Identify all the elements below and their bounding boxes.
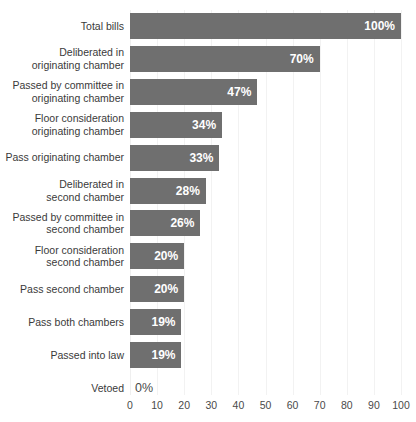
bar[interactable] — [130, 13, 401, 39]
bar-row[interactable]: 47% — [130, 79, 401, 105]
x-tick-label: 20 — [178, 398, 190, 412]
bar-row[interactable]: 100% — [130, 13, 401, 39]
bar-row[interactable]: 33% — [130, 145, 401, 171]
x-tick-label: 40 — [233, 398, 245, 412]
bar-value-label: 19% — [143, 342, 175, 368]
x-tick-label: 90 — [368, 398, 380, 412]
bar-row[interactable]: 0% — [130, 375, 401, 401]
category-label: Passed by committee in originating chamb… — [0, 79, 124, 104]
bar-row[interactable]: 19% — [130, 342, 401, 368]
category-axis-labels: Total billsDeliberated in originating ch… — [0, 10, 124, 395]
x-tick-label: 80 — [341, 398, 353, 412]
x-tick-label: 0 — [127, 398, 133, 412]
x-tick-label: 100 — [392, 398, 410, 412]
category-label: Vetoed — [0, 382, 124, 395]
bar-value-label: 26% — [162, 210, 194, 236]
gridline-100 — [401, 10, 402, 395]
x-axis-tick-labels: 0102030405060708090100 — [130, 398, 401, 414]
bar-value-label: 20% — [146, 243, 178, 269]
bar-value-label: 47% — [219, 79, 251, 105]
category-label: Deliberated in second chamber — [0, 178, 124, 203]
bar-row[interactable]: 34% — [130, 112, 401, 138]
category-label: Floor consideration second chamber — [0, 244, 124, 269]
bar-value-label: 20% — [146, 276, 178, 302]
category-label: Total bills — [0, 20, 124, 33]
bar-value-label: 33% — [181, 145, 213, 171]
bar-row[interactable]: 26% — [130, 210, 401, 236]
x-tick-label: 60 — [287, 398, 299, 412]
bar-row[interactable]: 20% — [130, 243, 401, 269]
x-tick-label: 30 — [205, 398, 217, 412]
x-tick-label: 10 — [151, 398, 163, 412]
bar-row[interactable]: 70% — [130, 46, 401, 72]
x-tick-label: 70 — [314, 398, 326, 412]
bar-row[interactable]: 19% — [130, 309, 401, 335]
bar-value-label: 0% — [135, 375, 153, 401]
x-tick-label: 50 — [260, 398, 272, 412]
category-label: Deliberated in originating chamber — [0, 46, 124, 71]
category-label: Floor consideration originating chamber — [0, 112, 124, 137]
bar-row[interactable]: 28% — [130, 178, 401, 204]
bar-value-label: 70% — [282, 46, 314, 72]
category-label: Pass second chamber — [0, 283, 124, 296]
category-label: Passed by committee in second chamber — [0, 211, 124, 236]
bar-value-label: 19% — [143, 309, 175, 335]
bar-value-label: 34% — [184, 112, 216, 138]
bar-rows: 100%70%47%34%33%28%26%20%20%19%19%0% — [130, 10, 401, 395]
plot-area: 100%70%47%34%33%28%26%20%20%19%19%0% — [130, 10, 401, 395]
bar-value-label: 100% — [363, 13, 395, 39]
bar-row[interactable]: 20% — [130, 276, 401, 302]
bar-chart: Total billsDeliberated in originating ch… — [0, 0, 416, 422]
category-label: Pass both chambers — [0, 316, 124, 329]
category-label: Passed into law — [0, 349, 124, 362]
category-label: Pass originating chamber — [0, 151, 124, 164]
bar-value-label: 28% — [168, 178, 200, 204]
